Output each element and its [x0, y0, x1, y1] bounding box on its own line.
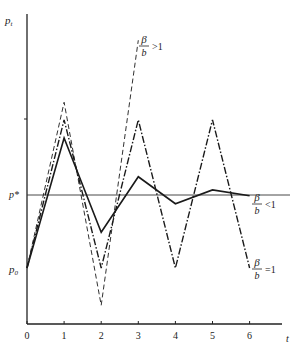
series-label-dash-dot: βb=1 — [252, 256, 276, 281]
svg-text:β: β — [140, 33, 147, 45]
x-tick-label: 3 — [136, 330, 141, 341]
series-line-solid — [27, 138, 250, 268]
svg-text:β: β — [253, 191, 260, 203]
x-axis-label: t — [286, 333, 289, 344]
series-line-dash-dot — [27, 120, 250, 268]
x-tick-label: 5 — [210, 330, 215, 341]
x-tick-label: 2 — [99, 330, 104, 341]
series-labels: βb<1βb=1βb>1 — [139, 33, 276, 281]
svg-text:b: b — [255, 205, 260, 216]
svg-text:=1: =1 — [265, 264, 276, 275]
svg-text:<1: <1 — [265, 199, 276, 210]
x-tick-label: 6 — [247, 330, 252, 341]
y-axis-label: pt — [4, 14, 14, 28]
p0-label: p0 — [8, 263, 19, 277]
x-tick-label: 4 — [173, 330, 178, 341]
svg-text:b: b — [255, 270, 260, 281]
series-group — [27, 40, 250, 305]
svg-text:>1: >1 — [152, 41, 163, 52]
svg-text:β: β — [253, 256, 260, 268]
x-tick-label: 0 — [25, 330, 30, 341]
chart: 0123456 pt t p* p0 βb<1βb=1βb>1 — [0, 0, 299, 351]
svg-text:b: b — [142, 47, 147, 58]
series-label-dashed: βb>1 — [139, 33, 163, 58]
x-tick-label: 1 — [62, 330, 67, 341]
pstar-label: p* — [8, 189, 19, 200]
series-line-dashed — [27, 40, 138, 305]
